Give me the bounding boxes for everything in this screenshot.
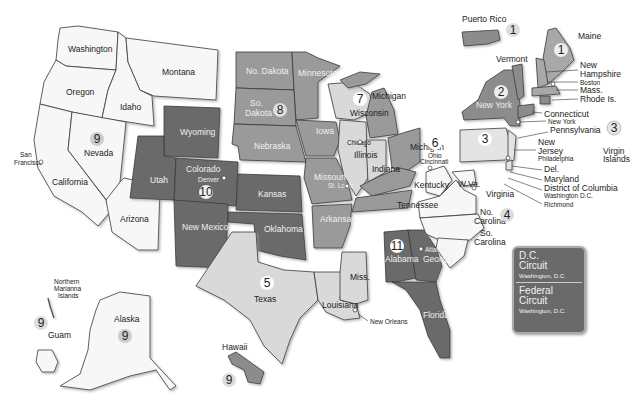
svg-text:3: 3 xyxy=(482,132,489,146)
svg-text:Kentucky: Kentucky xyxy=(414,180,450,190)
svg-text:Atlanta: Atlanta xyxy=(425,246,446,253)
svg-text:8: 8 xyxy=(277,103,284,117)
circuit-badge-1: 1 xyxy=(554,43,568,57)
svg-text:Miss.: Miss. xyxy=(350,272,370,282)
circuit-badge-9-alaska: 9 xyxy=(118,329,132,343)
svg-text:New York: New York xyxy=(548,118,576,125)
svg-text:9: 9 xyxy=(226,373,233,387)
svg-text:1: 1 xyxy=(510,23,517,37)
svg-text:So.: So. xyxy=(250,98,263,108)
territory-guam[interactable] xyxy=(36,350,58,372)
svg-text:Wisconsin: Wisconsin xyxy=(350,108,389,118)
svg-text:Pennsylvania: Pennsylvania xyxy=(550,125,601,135)
circuit-badge-4: 4 xyxy=(500,208,514,222)
state-alaska[interactable] xyxy=(60,292,176,390)
svg-text:Louisiana: Louisiana xyxy=(322,300,359,310)
svg-text:Montana: Montana xyxy=(162,67,195,77)
svg-text:Wyoming: Wyoming xyxy=(180,127,216,137)
svg-text:New York: New York xyxy=(476,100,513,110)
svg-text:Tennessee: Tennessee xyxy=(397,200,438,210)
svg-text:No. Dakota: No. Dakota xyxy=(246,66,289,76)
circuit-badge-10: 10 xyxy=(199,185,213,199)
svg-text:Oklahoma: Oklahoma xyxy=(264,224,303,234)
state-so-dakota[interactable] xyxy=(234,88,296,126)
state-del[interactable] xyxy=(506,160,512,170)
dc-circuit-box[interactable]: D.C. Circuit Washington, D.C. xyxy=(514,248,584,282)
svg-text:St. Louis: St. Louis xyxy=(328,182,354,189)
state-new-york[interactable] xyxy=(462,70,520,126)
circuit-badge-1-pr: 1 xyxy=(506,23,520,37)
svg-text:Michigan: Michigan xyxy=(372,91,406,101)
svg-text:Missouri: Missouri xyxy=(314,172,346,182)
state-mass[interactable] xyxy=(532,86,560,96)
circuit-badge-11: 11 xyxy=(390,239,404,253)
svg-text:Nevada: Nevada xyxy=(84,148,114,158)
federal-circuit-box[interactable]: Federal Circuit Washington, D.C. xyxy=(514,283,584,317)
northern-marianna-islands-shape xyxy=(48,298,54,318)
svg-text:New Mexico: New Mexico xyxy=(182,222,229,232)
star-icon xyxy=(419,247,423,251)
svg-text:Oregon: Oregon xyxy=(66,87,95,97)
svg-text:Kansas: Kansas xyxy=(258,189,286,199)
svg-text:6: 6 xyxy=(432,136,439,150)
circuit-badge-8: 8 xyxy=(273,103,287,117)
circuit-badge-9-guam: 9 xyxy=(34,316,48,330)
territory-puerto-rico[interactable] xyxy=(462,30,500,46)
svg-text:Georgia: Georgia xyxy=(423,254,454,264)
svg-text:Richmond: Richmond xyxy=(544,201,574,208)
svg-text:Northern: Northern xyxy=(54,278,80,285)
svg-text:1: 1 xyxy=(558,43,565,57)
svg-text:Arizona: Arizona xyxy=(120,214,149,224)
svg-text:Iowa: Iowa xyxy=(316,126,334,136)
svg-text:Rhode Is.: Rhode Is. xyxy=(580,94,616,104)
circuit-badge-6: 6 xyxy=(428,136,442,150)
svg-text:Utah: Utah xyxy=(150,175,168,185)
svg-text:Dakota: Dakota xyxy=(245,108,272,118)
svg-text:Virginia: Virginia xyxy=(486,189,514,199)
state-connecticut[interactable] xyxy=(518,104,534,118)
svg-text:Guam: Guam xyxy=(48,330,71,340)
circuit-badge-9: 9 xyxy=(90,132,104,146)
star-icon xyxy=(428,166,432,170)
svg-text:9: 9 xyxy=(94,132,101,146)
star-icon xyxy=(358,140,362,144)
star-icon xyxy=(516,120,520,124)
state-arkansas[interactable] xyxy=(312,204,352,248)
circuit-badge-5: 5 xyxy=(260,276,274,290)
svg-text:Illinois: Illinois xyxy=(354,150,378,160)
svg-text:New Orleans: New Orleans xyxy=(370,318,408,325)
svg-text:Indiana: Indiana xyxy=(372,164,400,174)
state-michigan-upper[interactable] xyxy=(340,72,380,88)
svg-text:California: California xyxy=(52,177,88,187)
svg-text:9: 9 xyxy=(38,316,45,330)
svg-text:Puerto Rico: Puerto Rico xyxy=(462,14,507,24)
svg-text:Islands: Islands xyxy=(58,292,79,299)
svg-text:4: 4 xyxy=(504,208,511,222)
svg-text:Florida: Florida xyxy=(423,310,449,320)
svg-text:3: 3 xyxy=(611,121,618,135)
svg-text:Minnesota: Minnesota xyxy=(298,68,337,78)
svg-text:11: 11 xyxy=(391,239,404,253)
star-icon xyxy=(506,156,510,160)
star-icon xyxy=(472,186,476,190)
star-icon xyxy=(353,308,357,312)
circuit-badge-3-vi: 3 xyxy=(607,121,621,135)
svg-text:Nebraska: Nebraska xyxy=(254,141,291,151)
svg-text:Francisco: Francisco xyxy=(14,159,43,166)
dc-federal-circuit-legend: D.C. Circuit Washington, D.C. Federal Ci… xyxy=(512,246,586,334)
circuit-badge-7: 7 xyxy=(353,92,367,106)
state-rhode-is[interactable] xyxy=(540,96,550,104)
svg-text:Philadelphia: Philadelphia xyxy=(538,155,574,163)
svg-text:Islands: Islands xyxy=(603,154,630,164)
svg-text:2: 2 xyxy=(498,85,505,99)
svg-text:Alabama: Alabama xyxy=(385,254,419,264)
svg-text:Idaho: Idaho xyxy=(120,102,142,112)
svg-text:San: San xyxy=(20,151,32,158)
svg-text:Del.: Del. xyxy=(544,164,559,174)
svg-text:Arkansas: Arkansas xyxy=(320,214,355,224)
svg-text:Carolina: Carolina xyxy=(474,237,506,247)
svg-text:Cincinnati: Cincinnati xyxy=(420,158,449,165)
star-icon xyxy=(345,184,349,188)
svg-text:W.Va.: W.Va. xyxy=(458,179,480,189)
svg-text:Hawaii: Hawaii xyxy=(222,342,248,352)
